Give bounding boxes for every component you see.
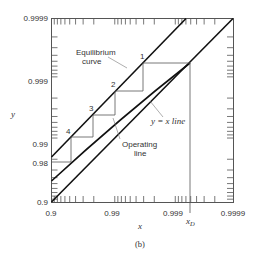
stage-label-1: 1 xyxy=(140,52,145,61)
y-axis-title: y xyxy=(10,109,15,119)
x-tick-label-0.9: 0.9 xyxy=(45,209,57,218)
stage-label-4: 4 xyxy=(66,127,71,136)
x-tick-label-0.9999: 0.9999 xyxy=(221,209,246,218)
stage-label-3: 3 xyxy=(89,104,94,113)
xd-label: xD xyxy=(185,216,195,227)
equilibrium-label-line2: curve xyxy=(82,57,102,66)
equilibrium-label-line1: Equilibrium xyxy=(76,48,116,57)
y-tick-label-0.9999: 0.9999 xyxy=(24,14,49,23)
equilibrium-leader xyxy=(108,57,127,68)
x-tick-label-0.99: 0.99 xyxy=(104,209,120,218)
y-tick-label-0.999: 0.999 xyxy=(28,77,49,86)
y-equals-x-line xyxy=(52,19,234,203)
stage-label-2: 2 xyxy=(111,80,116,89)
figure-caption: (b) xyxy=(135,239,145,249)
x-axis-title: x xyxy=(137,221,142,231)
operating-label-line1: Operating xyxy=(122,140,157,149)
x-tick-label-0.999: 0.999 xyxy=(163,209,184,218)
y-tick-label-0.98: 0.98 xyxy=(32,159,48,168)
mccabe-thiele-diagram: 1 2 3 4 Equilibrium curve y = x line Ope… xyxy=(0,0,256,261)
yx-leader xyxy=(150,101,163,117)
y-tick-label-0.99: 0.99 xyxy=(32,140,48,149)
operating-label-line2: line xyxy=(134,149,147,158)
yx-line-label: y = x line xyxy=(150,116,185,126)
equilibrium-curve xyxy=(52,19,187,158)
y-tick-label-0.9: 0.9 xyxy=(37,198,49,207)
